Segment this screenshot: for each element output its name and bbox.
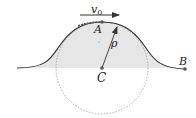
point-c-dot	[100, 66, 104, 70]
velocity-label: v0	[91, 3, 102, 17]
hump-radius-of-curvature-diagram: v0 A ρ C B	[0, 0, 196, 118]
radius-label: ρ	[110, 37, 118, 50]
point-a-label: A	[93, 23, 102, 36]
point-c-label: C	[97, 71, 106, 85]
diagram-svg: v0 A ρ C B	[0, 0, 196, 118]
center-mark	[98, 41, 99, 42]
point-b-label: B	[178, 55, 187, 68]
